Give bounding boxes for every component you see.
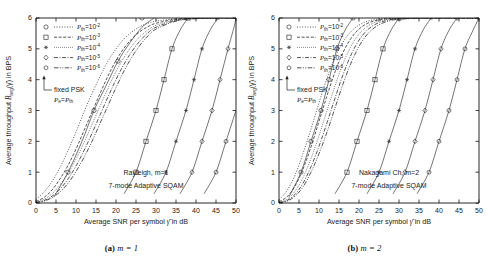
marker-hexagon-icon xyxy=(44,66,48,70)
series-6 xyxy=(124,16,190,194)
chart-svg-a: 051015202530354045500123456Average SNR p… xyxy=(0,0,243,240)
x-tick-label: 25 xyxy=(132,207,140,214)
legend-label: Pth=10-2 xyxy=(319,23,344,32)
x-tick-label: 40 xyxy=(192,207,200,214)
legend-label: Pth=10-4 xyxy=(319,43,344,52)
panel-annotation-line1: Nakagami Ch, m=2 xyxy=(359,169,419,177)
legend-exp: -3 xyxy=(339,33,344,38)
legend: Pth=10-2Pth=10-3Pth=10-4Pth=10-5Pth=10-6 xyxy=(287,23,344,73)
legend-base: =10 xyxy=(328,64,340,71)
series-6 xyxy=(335,16,401,194)
legend-label: Pth=10-5 xyxy=(76,54,101,63)
fixed-psk-label: fixed PSK xyxy=(297,86,328,93)
legend-exp: -4 xyxy=(339,43,344,48)
x-axis-label: Average SNR per symbol γ̄ in dB xyxy=(84,217,188,226)
x-tick-label: 35 xyxy=(415,207,423,214)
legend-base: =10 xyxy=(328,54,340,61)
y-tick-label: 5 xyxy=(28,45,32,52)
legend: Pth=10-2Pth=10-3Pth=10-4Pth=10-5Pth=10-6 xyxy=(44,23,101,73)
x-tick-label: 30 xyxy=(395,207,403,214)
x-tick-label: 5 xyxy=(297,207,301,214)
marker-circle-icon xyxy=(287,25,291,29)
arrow-up-icon xyxy=(285,76,288,80)
curve-path xyxy=(367,18,431,194)
curve-path xyxy=(154,18,218,194)
marker-square-icon xyxy=(44,35,48,39)
series-8 xyxy=(180,18,236,194)
fixed-psk-condition: Pe=Pth xyxy=(296,96,316,105)
legend-label: Pth=10-5 xyxy=(319,54,344,63)
chart-svg-b: 051015202530354045500123456Average SNR p… xyxy=(243,0,486,240)
marker-circle-icon xyxy=(44,25,48,29)
fixed-psk-annotation: fixed PSKPe=Pth xyxy=(285,76,328,105)
legend-exp: -2 xyxy=(339,23,344,28)
panel-annotation-line2: 7-mode Adaptive SQAM xyxy=(108,182,183,190)
y-tick-label: 4 xyxy=(271,76,275,83)
y-tick-label: 5 xyxy=(271,45,275,52)
cond-th-sub: th xyxy=(69,99,73,104)
x-axis-gamma: γ̄ xyxy=(167,218,172,226)
legend-label: Pth=10-4 xyxy=(76,43,101,52)
x-tick-label: 45 xyxy=(212,207,220,214)
caption-b-label: (b) xyxy=(348,243,359,253)
legend-exp: -6 xyxy=(339,64,344,69)
panel-annotation-line1: Rayleigh, m=1 xyxy=(124,169,169,177)
x-tick-label: 5 xyxy=(54,207,58,214)
series-8 xyxy=(393,16,459,194)
x-tick-label: 20 xyxy=(355,207,363,214)
arrow-up-icon xyxy=(42,76,45,80)
legend-label: Pth=10-3 xyxy=(76,33,101,42)
x-tick-label: 15 xyxy=(92,207,100,214)
fixed-psk-annotation: fixed PSKPe=Pth xyxy=(42,76,85,105)
fixed-psk-label: fixed PSK xyxy=(54,86,85,93)
y-tick-label: 0 xyxy=(271,199,275,206)
y-axis-label: Average throughput Bavg(γ̄) in BPS xyxy=(4,56,14,165)
legend-base: =10 xyxy=(85,54,97,61)
legend-base: =10 xyxy=(85,23,97,30)
y-tick-label: 3 xyxy=(28,107,32,114)
y-tick-label: 2 xyxy=(28,138,32,145)
plot-area-a: 051015202530354045500123456Average SNR p… xyxy=(0,0,243,240)
marker-square-icon xyxy=(287,35,291,39)
x-tick-label: 50 xyxy=(232,207,240,214)
series-7 xyxy=(154,16,220,194)
legend-exp: -3 xyxy=(96,33,101,38)
x-tick-label: 50 xyxy=(475,207,483,214)
marker-hexagon-icon xyxy=(287,66,291,70)
panel-b: 051015202530354045500123456Average SNR p… xyxy=(243,0,486,270)
x-tick-label: 15 xyxy=(335,207,343,214)
x-tick-label: 40 xyxy=(435,207,443,214)
legend-base: =10 xyxy=(328,34,340,41)
y-tick-label: 4 xyxy=(28,76,32,83)
y-tick-label: 1 xyxy=(28,169,32,176)
caption-a: (a) m = 1 xyxy=(0,243,243,253)
legend-exp: -5 xyxy=(96,54,101,59)
x-tick-label: 20 xyxy=(112,207,120,214)
legend-exp: -6 xyxy=(96,64,101,69)
y-tick-label: 0 xyxy=(28,199,32,206)
x-tick-label: 45 xyxy=(455,207,463,214)
fixed-psk-condition: Pe=Pth xyxy=(53,96,73,105)
legend-base: =10 xyxy=(328,23,340,30)
y-tick-label: 6 xyxy=(271,14,275,21)
legend-base: =10 xyxy=(85,34,97,41)
legend-base: =10 xyxy=(85,64,97,71)
x-axis-label: Average SNR per symbol γ̄ in dB xyxy=(327,217,431,226)
curve-path xyxy=(124,18,188,194)
y-axis-label: Average throughput Bavg(γ̄) in BPS xyxy=(247,56,257,165)
x-tick-label: 35 xyxy=(172,207,180,214)
caption-b-text: m = 2 xyxy=(361,243,382,253)
curve-path xyxy=(204,111,236,194)
y-axis-arg: (γ̄) xyxy=(4,80,13,88)
legend-exp: -5 xyxy=(339,54,344,59)
caption-b: (b) m = 2 xyxy=(243,243,486,253)
caption-a-label: (a) xyxy=(105,243,115,253)
marker-diamond-icon xyxy=(44,55,48,60)
y-tick-label: 6 xyxy=(28,14,32,21)
panel-a: 051015202530354045500123456Average SNR p… xyxy=(0,0,243,270)
figure-container: 051015202530354045500123456Average SNR p… xyxy=(0,0,486,270)
x-axis-gamma: γ̄ xyxy=(410,218,415,226)
caption-a-text: m = 1 xyxy=(117,243,138,253)
panel-annotation-line2: 7-mode Adaptive SQAM xyxy=(351,182,426,190)
curve-path xyxy=(335,18,399,194)
